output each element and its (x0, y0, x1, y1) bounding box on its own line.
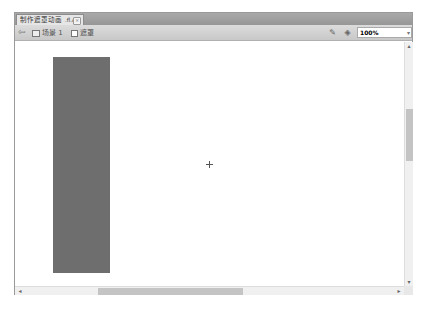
breadcrumb-symbol[interactable]: 遮罩 (80, 28, 94, 38)
scroll-right-button[interactable]: ▸ (395, 287, 403, 295)
scrollbar-corner (404, 286, 413, 295)
gray-rectangle-shape[interactable] (53, 57, 110, 273)
edit-symbols-button[interactable]: ◈ (342, 28, 353, 37)
close-tab-button[interactable]: × (73, 17, 81, 25)
vertical-scrollbar[interactable]: ▴ ▾ (404, 42, 413, 286)
scene-icon (32, 30, 40, 37)
document-tab-title: 制作遮罩动画 (20, 16, 62, 24)
symbol-icon (71, 30, 78, 37)
stage-canvas[interactable] (15, 42, 404, 286)
edit-bar: ⇦ 场景 1 遮罩 ✎ ◈ 100% ▾ (15, 25, 412, 41)
edit-scene-button[interactable]: ✎ (327, 28, 338, 37)
horizontal-scrollbar[interactable]: ◂ ▸ (15, 286, 404, 295)
scroll-left-button[interactable]: ◂ (16, 287, 24, 295)
chevron-down-icon[interactable]: ▾ (407, 28, 410, 37)
vertical-scroll-thumb[interactable] (406, 109, 413, 161)
back-arrow-icon[interactable]: ⇦ (18, 28, 26, 37)
breadcrumb-scene[interactable]: 场景 1 (42, 28, 63, 38)
scroll-down-button[interactable]: ▾ (405, 278, 413, 286)
document-tab[interactable]: 制作遮罩动画.fl.a × (16, 14, 84, 25)
document-window: 制作遮罩动画.fl.a × ⇦ 场景 1 遮罩 ✎ ◈ 100% ▾ ▴ ▾ ◂… (14, 12, 413, 295)
document-tab-bar: 制作遮罩动画.fl.a × (15, 13, 412, 25)
scroll-up-button[interactable]: ▴ (405, 42, 413, 50)
breadcrumb: 场景 1 遮罩 (32, 28, 94, 38)
horizontal-scroll-thumb[interactable] (98, 288, 243, 295)
zoom-select[interactable]: 100% ▾ (357, 27, 412, 38)
registration-crosshair-icon (206, 161, 213, 168)
zoom-value: 100% (360, 29, 379, 36)
